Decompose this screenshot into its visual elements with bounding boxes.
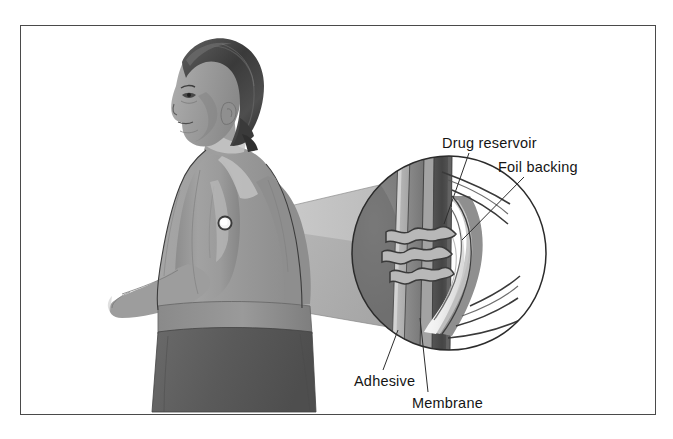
drug-molecules bbox=[382, 227, 456, 284]
leader-adhesive bbox=[383, 330, 398, 370]
transdermal-patch-on-arm bbox=[218, 216, 233, 231]
label-foil-backing: Foil backing bbox=[498, 160, 578, 175]
label-drug-reservoir: Drug reservoir bbox=[442, 136, 537, 151]
label-adhesive: Adhesive bbox=[354, 374, 415, 389]
illustration-stage: Drug reservoir Foil backing Adhesive Mem… bbox=[0, 0, 673, 439]
magnified-cross-section bbox=[352, 156, 546, 350]
man-figure bbox=[108, 38, 316, 412]
trousers bbox=[152, 328, 316, 413]
label-membrane: Membrane bbox=[412, 396, 483, 411]
transdermal-patch-illustration bbox=[0, 0, 673, 439]
